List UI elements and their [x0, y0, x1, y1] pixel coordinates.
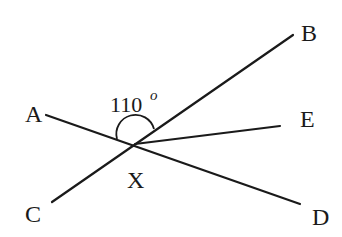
point-label-a: A: [25, 101, 43, 127]
angle-degree-symbol: o: [150, 87, 158, 103]
line-cb: [52, 35, 293, 202]
point-label-b: B: [301, 20, 317, 46]
geometry-diagram: 110 o A B E C D X: [0, 0, 342, 237]
point-label-x: X: [127, 167, 144, 193]
angle-value-label: 110: [110, 92, 142, 117]
point-label-e: E: [300, 106, 315, 132]
point-label-c: C: [25, 201, 41, 227]
diagram-canvas: 110 o A B E C D X: [0, 0, 342, 237]
point-label-d: D: [312, 204, 329, 230]
